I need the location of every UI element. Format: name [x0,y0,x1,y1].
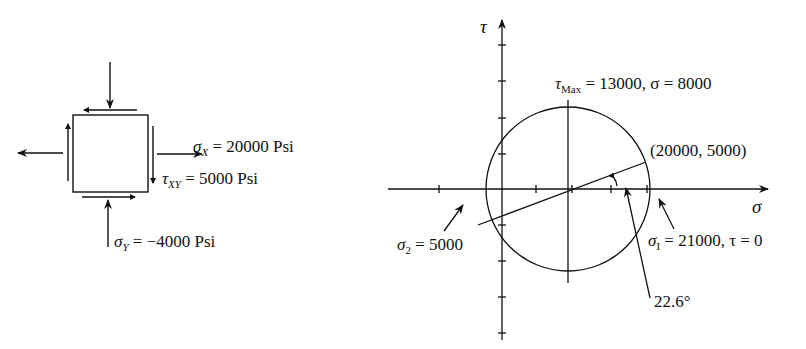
element-square [73,115,148,192]
sigma2-pointer [444,205,463,231]
sigma1-label: σI = 21000, τ = 0 [648,232,763,252]
sigma2-label: σ2 = 5000 [397,236,463,256]
stress-state-diameter [478,162,646,225]
mohr-circle-diagram [388,20,768,340]
sigma-x-label: σX = 20000 Psi [193,138,294,158]
tau-xy-label: τXY = 5000 Psi [162,170,258,190]
stress-element [18,62,202,247]
sigma1-pointer [659,199,674,229]
point-label: (20000, 5000) [650,142,746,159]
sigma-y-label: σY = −4000 Psi [114,233,215,253]
sigma-axis-label: σ [752,197,761,216]
tau-axis-label: τ [480,17,487,36]
tau-max-label: τMax = 13000, σ = 8000 [555,75,712,95]
angle-label: 22.6° [654,293,691,310]
angle-arc [614,178,617,186]
